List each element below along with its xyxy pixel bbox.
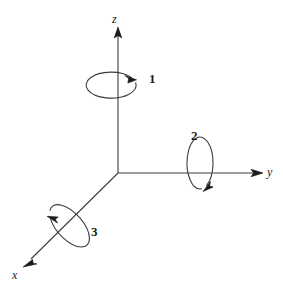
rotation-1-label: 1 [149,72,156,85]
y-axis-label: y [267,166,272,178]
rotation-3-arc [42,198,96,254]
rotation-3-ellipse [42,198,96,254]
rotation-3-arrowhead [47,211,61,225]
rotation-2-label: 2 [191,129,198,142]
rotation-2-arc [187,137,213,192]
rotation-2-ellipse [187,137,213,189]
z-axis [114,27,122,173]
x-axis-label: x [12,269,17,281]
y-axis [118,169,263,177]
coordinate-axes-rotation-diagram: z y x 1 2 3 [0,0,283,291]
x-axis-arrowhead [23,259,37,267]
x-axis [23,173,118,267]
rotation-3-label: 3 [91,225,98,238]
diagram-canvas [0,0,283,291]
rotation-1-ellipse [86,72,136,98]
z-axis-label: z [112,13,117,25]
rotation-1-arc [86,72,136,98]
